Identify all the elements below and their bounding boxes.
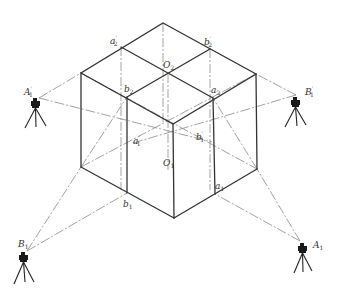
edge-bottom-right — [174, 169, 257, 218]
label-station-b1p: B′1 — [304, 85, 314, 98]
label-b1p: b′1 — [196, 130, 204, 143]
station-a1 — [294, 243, 312, 273]
station-b1 — [14, 252, 34, 284]
label-b2p: b′2 — [204, 35, 212, 48]
edge-right-vertical — [256, 74, 257, 169]
sight-line-a1-a1 — [215, 194, 300, 241]
label-o1: O1 — [163, 158, 174, 169]
sight-line-b1p-a1p — [133, 95, 296, 143]
sight-line-b1p-right-corner — [256, 74, 296, 95]
sight-line-a1-bottom-right — [257, 169, 300, 241]
label-a1: a1 — [215, 181, 224, 192]
sight-line-a1p-b1p — [39, 98, 212, 142]
sight-line-b1-bottom-left — [27, 167, 81, 251]
theodolite-icon — [25, 98, 46, 128]
edge-front-vertical — [173, 124, 174, 218]
label-a2: a2 — [211, 85, 220, 96]
sight-line-b1-b2 — [81, 97, 127, 167]
label-b1: b1 — [123, 199, 133, 210]
label-b2: b2 — [124, 84, 134, 95]
label-station-a1: A1 — [312, 240, 323, 251]
label-station-b1: B1 — [17, 239, 28, 250]
station-a1p — [25, 98, 46, 128]
theodolite-icon — [14, 252, 34, 284]
survey-diagram: a′2 b′2 O2 b2 a2 a′1 b′1 O1 a1 b1 A′1 — [0, 0, 339, 298]
sight-line-b1-b1 — [27, 193, 127, 251]
label-station-a1p: A′1 — [23, 85, 33, 98]
sight-line-a1p-left-corner — [39, 73, 81, 98]
theodolite-icon — [285, 97, 306, 127]
theodolite-icon — [294, 243, 312, 273]
label-a1p: a′1 — [133, 134, 141, 147]
station-b1p — [285, 97, 306, 127]
label-o2: O2 — [163, 60, 174, 71]
label-a2p: a′2 — [110, 34, 118, 47]
sight-line-a1-a2 — [213, 98, 257, 169]
